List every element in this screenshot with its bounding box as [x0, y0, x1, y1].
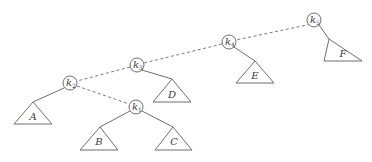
subtree-F: F [324, 39, 362, 61]
subtree-label-A: A [28, 111, 36, 122]
subtree-E: E [236, 61, 274, 83]
edge-k2-A [33, 88, 64, 102]
subtree-label-D: D [167, 89, 176, 100]
node-k4: k 4 [222, 35, 236, 49]
node-subscript-k4: 4 [231, 41, 235, 48]
edge-k4-E [234, 47, 255, 61]
node-k2: k 2 [63, 76, 77, 90]
dashed-edge-k4-k3 [144, 44, 222, 63]
subtree-B: B [80, 127, 118, 150]
subtree-D: D [153, 79, 191, 102]
node-subscript-k5: 5 [316, 19, 320, 26]
subtree-label-F: F [339, 48, 348, 59]
subtree-label-C: C [170, 136, 178, 147]
edge-k1-C [142, 111, 173, 127]
dashed-edge-k3-k2 [77, 67, 130, 81]
subtree-C: C [155, 127, 192, 150]
edge-k3-D [142, 70, 172, 79]
node-k1: k 1 [129, 100, 143, 114]
node-subscript-k3: 3 [139, 64, 143, 71]
node-subscript-k2: 2 [72, 82, 76, 89]
tree-diagram: F E D A B C k 5 k 4 k 3 k 2 k [0, 0, 372, 162]
edge-k5-F [319, 25, 329, 39]
node-k3: k 3 [130, 58, 144, 72]
subtree-label-E: E [250, 70, 259, 81]
node-subscript-k1: 1 [138, 106, 142, 113]
dashed-edge-k2-k1 [77, 86, 129, 104]
edge-k1-B [100, 111, 130, 127]
subtree-label-B: B [94, 136, 102, 147]
node-k5: k 5 [307, 13, 321, 27]
subtree-A: A [14, 102, 52, 124]
